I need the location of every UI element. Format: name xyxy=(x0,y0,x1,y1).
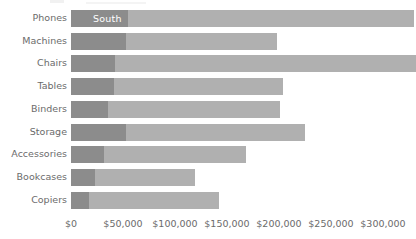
x-tick-label: $150,000 xyxy=(204,218,249,230)
stacked-bar[interactable] xyxy=(71,192,219,209)
category-label-binders: Binders xyxy=(0,104,67,114)
category-label-storage: Storage xyxy=(0,127,67,137)
x-tick-label: $100,000 xyxy=(152,218,197,230)
category-label-phones: Phones xyxy=(0,13,67,23)
x-tick-label: $300,000 xyxy=(360,218,405,230)
bar-segment-south[interactable] xyxy=(71,101,108,118)
x-axis: $0$50,000$100,000$150,000$200,000$250,00… xyxy=(0,218,416,236)
x-tick-label: $200,000 xyxy=(256,218,301,230)
stacked-bar[interactable] xyxy=(71,169,195,186)
stacked-bar[interactable] xyxy=(71,78,283,95)
bar-segment-south[interactable] xyxy=(71,169,95,186)
x-tick-label: $250,000 xyxy=(308,218,353,230)
bar-segment-other-regions[interactable] xyxy=(128,10,414,27)
bar-segment-south[interactable] xyxy=(71,55,115,72)
x-tick-label: $50,000 xyxy=(103,218,142,230)
stacked-bar[interactable]: South xyxy=(71,10,414,27)
bar-segment-south[interactable] xyxy=(71,33,126,50)
stacked-bar[interactable] xyxy=(71,124,305,141)
x-tick-label: $0 xyxy=(65,218,77,230)
stacked-bar[interactable] xyxy=(71,33,277,50)
category-label-copiers: Copiers xyxy=(0,195,67,205)
bar-segment-other-regions[interactable] xyxy=(104,146,245,163)
bar-segment-other-regions[interactable] xyxy=(114,78,284,95)
segment-callout-label: South xyxy=(93,13,122,24)
category-label-accessories: Accessories xyxy=(0,149,67,159)
category-label-machines: Machines xyxy=(0,36,67,46)
bar-segment-south[interactable] xyxy=(71,78,114,95)
bar-segment-other-regions[interactable] xyxy=(89,192,219,209)
bar-segment-other-regions[interactable] xyxy=(115,55,416,72)
bar-segment-other-regions[interactable] xyxy=(126,33,277,50)
bar-segment-other-regions[interactable] xyxy=(126,124,305,141)
bar-segment-other-regions[interactable] xyxy=(95,169,195,186)
bar-segment-south[interactable] xyxy=(71,124,126,141)
bar-segment-south[interactable] xyxy=(71,192,89,209)
bar-segment-other-regions[interactable] xyxy=(108,101,280,118)
bar-segment-south[interactable] xyxy=(71,146,104,163)
stacked-bar[interactable] xyxy=(71,146,246,163)
stacked-bar-chart: PhonesSouthMachinesChairsTablesBindersSt… xyxy=(0,0,416,239)
plot-area: PhonesSouthMachinesChairsTablesBindersSt… xyxy=(0,0,416,239)
category-label-chairs: Chairs xyxy=(0,58,67,68)
stacked-bar[interactable] xyxy=(71,101,280,118)
stacked-bar[interactable] xyxy=(71,55,416,72)
category-label-bookcases: Bookcases xyxy=(0,172,67,182)
category-label-tables: Tables xyxy=(0,81,67,91)
